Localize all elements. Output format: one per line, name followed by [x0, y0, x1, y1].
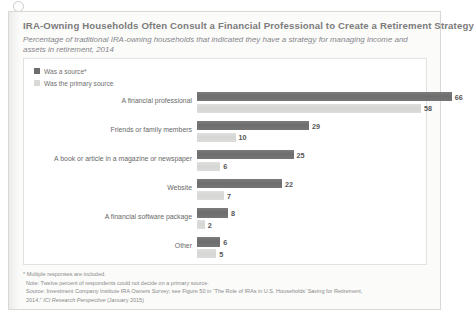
bar: [197, 237, 220, 246]
bar-value-label: 25: [297, 151, 305, 160]
legend-item-label: Was a source*: [44, 68, 87, 75]
legend-item: Was the primary source: [34, 78, 113, 88]
bar: [197, 104, 421, 113]
bar-value-label: 7: [227, 192, 231, 201]
chart-legend: Was a source*Was the primary source: [34, 66, 113, 90]
footnote-asterisk: * Multiple responses are included.: [23, 270, 428, 279]
category-label: Friends or family members: [110, 125, 192, 134]
chart-subtitle: Percentage of traditional IRA-owning hou…: [23, 35, 423, 55]
page-title: IRA-Owning Households Often Consult a Fi…: [23, 20, 430, 32]
bar: [197, 92, 452, 101]
source-prefix: 2014,”: [26, 297, 43, 303]
chart-plot-area: Was a source*Was the primary source A fi…: [23, 58, 427, 265]
figure-footnotes: * Multiple responses are included. Note:…: [23, 270, 428, 304]
source-suffix: (January 2015): [105, 297, 144, 303]
bar: [197, 249, 216, 258]
legend-item: Was a source*: [34, 66, 113, 76]
bar-group: A financial professional6658: [24, 89, 426, 118]
source-publication-title: ICI Research Perspective: [43, 297, 105, 303]
footnote-note: Note: Twelve percent of respondents coul…: [23, 279, 428, 288]
footnote-source-line-2: 2014,” ICI Research Perspective (January…: [23, 296, 428, 305]
category-label: A financial software package: [105, 212, 192, 221]
bar-value-label: 6: [223, 162, 227, 171]
bar: [197, 208, 228, 217]
bar-value-label: 29: [312, 122, 320, 131]
bar: [197, 179, 282, 188]
bar-group: Other65: [24, 234, 426, 263]
bar: [197, 121, 309, 130]
figure-container: IRA-Owning Households Often Consult a Fi…: [8, 11, 441, 310]
bar-group: Website227: [24, 176, 426, 205]
category-label: Website: [167, 183, 192, 192]
bar: [197, 133, 236, 142]
category-label: Other: [175, 241, 192, 250]
bar-value-label: 58: [424, 104, 432, 113]
bar-groups: A financial professional6658Friends or f…: [24, 89, 426, 264]
legend-swatch-icon: [34, 80, 40, 86]
category-label: A book or article in a magazine or newsp…: [54, 154, 192, 163]
bar-value-label: 8: [231, 209, 235, 218]
bar-value-label: 6: [223, 238, 227, 247]
bar: [197, 162, 220, 171]
bar-group: Friends or family members2910: [24, 118, 426, 147]
figure-header: IRA-Owning Households Often Consult a Fi…: [23, 20, 430, 55]
bar-group: A financial software package82: [24, 205, 426, 234]
bar: [197, 150, 294, 159]
legend-swatch-icon: [34, 68, 40, 74]
category-label: A financial professional: [122, 96, 192, 105]
bar-group: A book or article in a magazine or newsp…: [24, 147, 426, 176]
bar-value-label: 22: [285, 180, 293, 189]
bar-value-label: 2: [208, 221, 212, 230]
footnote-source-line-1: Source: Investment Company Institute IRA…: [23, 287, 428, 296]
bar-value-label: 10: [239, 133, 247, 142]
bar: [197, 191, 224, 200]
bar-value-label: 66: [455, 93, 463, 102]
legend-item-label: Was the primary source: [44, 80, 113, 87]
bar: [197, 220, 205, 229]
bar-value-label: 5: [219, 250, 223, 259]
page-gutter-shading: [9, 12, 20, 309]
